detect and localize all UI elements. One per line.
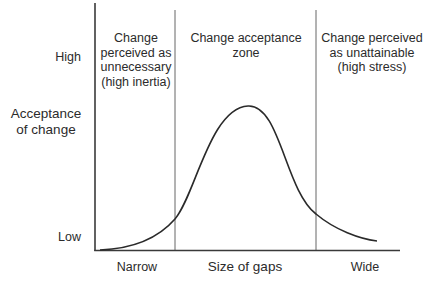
zone-title-acceptance: Change acceptance zone xyxy=(180,31,312,60)
zone-unnecessary-line-1: Change xyxy=(98,31,174,46)
zone-acceptance-line-1: Change acceptance xyxy=(180,31,312,46)
y-axis-title-line-1: Acceptance xyxy=(6,106,86,122)
zone-unattainable-line-3: (high stress) xyxy=(318,60,426,75)
zone-unattainable-line-1: Change perceived xyxy=(318,31,426,46)
zone-unattainable-line-2: as unattainable xyxy=(318,46,426,61)
y-axis-title-line-2: of change xyxy=(6,122,86,138)
x-axis-title-text: Size of gaps xyxy=(190,259,300,275)
acceptance-of-change-diagram: High Acceptance of change Low Narrow Siz… xyxy=(0,0,426,283)
x-axis-narrow-label: Narrow xyxy=(105,260,169,275)
zone-acceptance-line-2: zone xyxy=(180,46,312,61)
y-axis-title: Acceptance of change xyxy=(6,106,86,138)
x-axis-title: Size of gaps xyxy=(190,259,300,275)
y-axis-high-label: High xyxy=(46,50,81,65)
zone-unnecessary-line-4: (high inertia) xyxy=(98,75,174,90)
zone-unnecessary-line-2: perceived as xyxy=(98,46,174,61)
zone-title-unattainable: Change perceived as unattainable (high s… xyxy=(318,31,426,75)
zone-title-unnecessary: Change perceived as unnecessary (high in… xyxy=(98,31,174,89)
acceptance-curve xyxy=(100,106,377,250)
y-axis-low-label: Low xyxy=(40,230,81,245)
x-axis-wide-label: Wide xyxy=(340,260,390,275)
zone-unnecessary-line-3: unnecessary xyxy=(98,60,174,75)
